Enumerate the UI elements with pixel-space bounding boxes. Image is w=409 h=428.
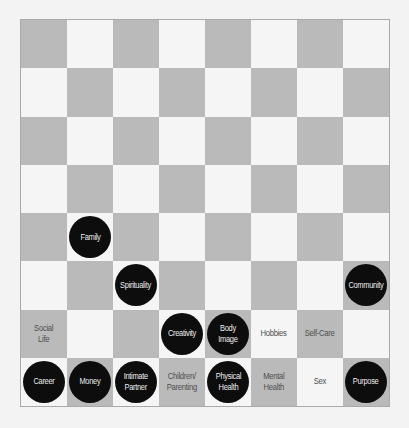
board-square-r0-c2: [113, 20, 159, 68]
board-square-r6-c5: Hobbies: [251, 310, 297, 358]
game-piece: Community: [345, 264, 387, 306]
board-square-r5-c6: [297, 261, 343, 309]
piece-label: Community: [348, 280, 383, 291]
board-square-r3-c6: [297, 165, 343, 213]
board-square-r4-c1: Family: [67, 213, 113, 261]
board-square-r2-c4: [205, 117, 251, 165]
board-square-r4-c3: [159, 213, 205, 261]
board-square-r2-c1: [67, 117, 113, 165]
piece-label: Purpose: [353, 376, 379, 387]
board-square-r7-c1: Money: [67, 358, 113, 406]
board-square-r7-c7: Purpose: [343, 358, 389, 406]
board-square-r1-c3: [159, 68, 205, 116]
game-piece: Body Image: [207, 313, 249, 355]
game-piece: Creativity: [161, 313, 203, 355]
board-square-r5-c5: [251, 261, 297, 309]
square-label: Hobbies: [261, 328, 287, 339]
board-square-r5-c1: [67, 261, 113, 309]
piece-label: Body Image: [218, 323, 237, 345]
board-square-r0-c5: [251, 20, 297, 68]
board-square-r7-c6: Sex: [297, 358, 343, 406]
board-square-r1-c6: [297, 68, 343, 116]
board-square-r5-c7: Community: [343, 261, 389, 309]
board-square-r1-c5: [251, 68, 297, 116]
board-square-r6-c4: Body Image: [205, 310, 251, 358]
piece-label: Physical Health: [215, 371, 240, 393]
board-square-r2-c5: [251, 117, 297, 165]
piece-label: Money: [80, 376, 101, 387]
game-piece: Purpose: [345, 361, 387, 403]
board-square-r7-c4: Physical Health: [205, 358, 251, 406]
square-label: Self-Care: [305, 328, 335, 339]
piece-label: Family: [80, 232, 100, 243]
board-square-r6-c3: Creativity: [159, 310, 205, 358]
board-square-r2-c3: [159, 117, 205, 165]
square-label: Children/ Parenting: [167, 371, 197, 393]
board-square-r0-c3: [159, 20, 205, 68]
board-square-r7-c2: Intimate Partner: [113, 358, 159, 406]
square-label: Mental Health: [263, 371, 284, 393]
piece-label: Career: [33, 376, 54, 387]
game-piece: Money: [69, 361, 111, 403]
board-square-r3-c3: [159, 165, 205, 213]
board-square-r5-c3: [159, 261, 205, 309]
board-square-r7-c0: Career: [21, 358, 67, 406]
board-square-r4-c6: [297, 213, 343, 261]
board-square-r1-c7: [343, 68, 389, 116]
board-square-r2-c7: [343, 117, 389, 165]
board-square-r1-c0: [21, 68, 67, 116]
board-square-r1-c4: [205, 68, 251, 116]
board-square-r6-c1: [67, 310, 113, 358]
game-piece: Intimate Partner: [115, 361, 157, 403]
square-label: Sex: [314, 376, 326, 387]
board-square-r3-c5: [251, 165, 297, 213]
piece-label: Spirituality: [121, 280, 152, 291]
board-square-r1-c1: [67, 68, 113, 116]
board-square-r0-c0: [21, 20, 67, 68]
game-piece: Physical Health: [207, 361, 249, 403]
board-square-r3-c0: [21, 165, 67, 213]
board-square-r4-c5: [251, 213, 297, 261]
board-square-r6-c7: [343, 310, 389, 358]
board-square-r3-c7: [343, 165, 389, 213]
board-square-r0-c7: [343, 20, 389, 68]
game-piece: Career: [23, 361, 65, 403]
board-square-r6-c6: Self-Care: [297, 310, 343, 358]
board-square-r4-c4: [205, 213, 251, 261]
game-piece: Family: [69, 216, 111, 258]
board-square-r6-c0: Social Life: [21, 310, 67, 358]
life-areas-checkerboard: FamilySpiritualityCommunitySocial LifeCr…: [20, 19, 390, 407]
board-square-r5-c0: [21, 261, 67, 309]
board-square-r2-c6: [297, 117, 343, 165]
board-square-r4-c2: [113, 213, 159, 261]
board-square-r3-c4: [205, 165, 251, 213]
board-square-r0-c6: [297, 20, 343, 68]
board-square-r0-c1: [67, 20, 113, 68]
board-square-r3-c1: [67, 165, 113, 213]
board-square-r7-c3: Children/ Parenting: [159, 358, 205, 406]
game-piece: Spirituality: [115, 264, 157, 306]
piece-label: Creativity: [168, 328, 196, 339]
board-square-r1-c2: [113, 68, 159, 116]
board-square-r6-c2: [113, 310, 159, 358]
board-square-r5-c2: Spirituality: [113, 261, 159, 309]
board-square-r0-c4: [205, 20, 251, 68]
piece-label: Intimate Partner: [124, 371, 148, 393]
board-square-r5-c4: [205, 261, 251, 309]
board-square-r7-c5: Mental Health: [251, 358, 297, 406]
square-label: Social Life: [34, 323, 53, 345]
board-square-r4-c7: [343, 213, 389, 261]
board-square-r2-c0: [21, 117, 67, 165]
board-square-r4-c0: [21, 213, 67, 261]
board-square-r3-c2: [113, 165, 159, 213]
board-square-r2-c2: [113, 117, 159, 165]
